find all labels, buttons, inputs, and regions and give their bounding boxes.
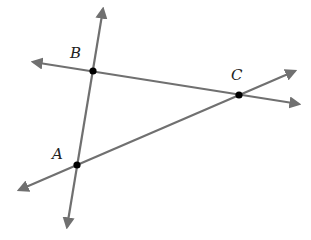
geometry-diagram: BCA [0, 0, 311, 240]
label-C: C [231, 66, 243, 84]
line-AC [19, 71, 295, 190]
labels: BCA [50, 44, 243, 163]
point-B [89, 67, 96, 74]
label-B: B [69, 44, 81, 62]
point-C [235, 91, 242, 98]
label-A: A [50, 145, 63, 163]
lines [19, 9, 299, 227]
line-AB [67, 9, 103, 227]
point-A [73, 161, 80, 168]
line-BC [33, 62, 299, 104]
